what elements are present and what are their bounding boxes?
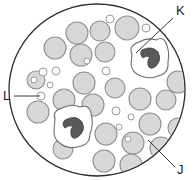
round-cell — [129, 88, 151, 110]
label-k-text: K — [176, 3, 185, 18]
small-vesicle — [106, 15, 114, 23]
round-cell — [66, 22, 88, 44]
small-vesicle — [125, 136, 131, 142]
small-vesicle — [31, 77, 37, 83]
round-cell — [156, 90, 176, 110]
amoeboid-cell-lower-left — [54, 105, 92, 147]
round-cell — [73, 72, 95, 94]
small-vesicle — [39, 68, 47, 76]
small-vesicle — [102, 67, 110, 75]
small-vesicle — [47, 82, 53, 88]
small-vesicle — [116, 124, 122, 130]
round-cell — [115, 16, 139, 40]
histology-figure: KLJ — [0, 0, 194, 180]
round-cell — [27, 101, 49, 123]
diagram-canvas: KLJ — [0, 0, 194, 180]
label-l-text: L — [3, 88, 10, 103]
small-vesicle — [52, 67, 60, 75]
round-cell — [44, 37, 66, 59]
round-cell — [93, 150, 115, 172]
round-cell — [105, 78, 125, 98]
small-vesicle — [84, 58, 90, 64]
round-cell — [95, 123, 117, 145]
label-j-text: J — [177, 162, 184, 177]
round-cell — [95, 42, 115, 62]
small-vesicle — [112, 107, 120, 115]
amoeboid-cell-upper-right — [131, 39, 169, 78]
round-cell — [90, 21, 110, 41]
round-cell — [122, 132, 144, 154]
small-vesicle — [128, 114, 134, 120]
small-vesicle — [142, 24, 150, 32]
label-j: J — [148, 140, 184, 177]
round-cell — [167, 71, 189, 93]
round-cell — [139, 113, 161, 135]
